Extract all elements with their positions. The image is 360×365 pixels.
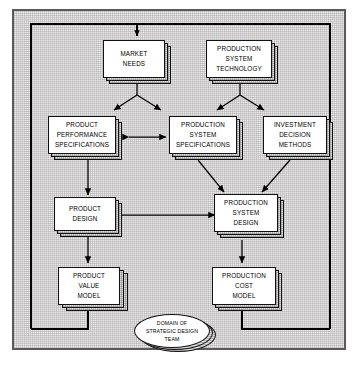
node-label-line: PRODUCTION	[224, 198, 268, 208]
node-product-performance-specifications[interactable]: PRODUCT PERFORMANCE SPECIFICATIONS	[48, 116, 116, 154]
node-label-line: PRODUCT	[73, 271, 105, 281]
node-production-system-design[interactable]: PRODUCTION SYSTEM DESIGN	[214, 194, 278, 232]
node-product-design[interactable]: PRODUCT DESIGN	[54, 197, 116, 231]
ellipse-label-line: DOMAIN OF	[157, 319, 187, 327]
node-production-cost-model[interactable]: PRODUCTION COST MODEL	[212, 267, 276, 305]
node-label-line: INVESTMENT	[274, 120, 316, 130]
node-label-line: MODEL	[232, 291, 255, 301]
node-production-system-specifications[interactable]: PRODUCTION SYSTEM SPECIFICATIONS	[169, 116, 237, 154]
node-label-line: SYSTEM	[190, 130, 217, 140]
node-label-line: SPECIFICATIONS	[55, 140, 109, 150]
node-label-line: NEEDS	[123, 59, 145, 69]
node-product-value-model[interactable]: PRODUCT VALUE MODEL	[58, 267, 120, 305]
node-label-line: TECHNOLOGY	[216, 64, 262, 74]
node-label-line: PRODUCTION	[222, 271, 266, 281]
node-label-line: SPECIFICATIONS	[176, 140, 230, 150]
node-label-line: MODEL	[77, 291, 100, 301]
node-label-line: METHODS	[279, 140, 312, 150]
node-label-line: SYSTEM	[226, 54, 253, 64]
node-label-line: MARKET	[120, 49, 147, 59]
domain-of-strategic-design-team-ellipse[interactable]: DOMAIN OF STRATEGIC DESIGN TEAM	[134, 314, 210, 348]
node-label-line: COST	[235, 281, 253, 291]
node-investment-decision-methods[interactable]: INVESTMENT DECISION METHODS	[263, 116, 327, 154]
node-production-system-technology[interactable]: PRODUCTION SYSTEM TECHNOLOGY	[206, 40, 272, 78]
node-label-line: PRODUCT	[69, 204, 101, 214]
node-label-line: DECISION	[279, 130, 311, 140]
node-label-line: VALUE	[79, 281, 100, 291]
node-label-line: PRODUCT	[66, 120, 98, 130]
node-label-line: DESIGN	[233, 218, 258, 228]
node-market-needs[interactable]: MARKET NEEDS	[103, 40, 165, 78]
node-label-line: PRODUCTION	[181, 120, 225, 130]
node-label-line: DESIGN	[72, 214, 97, 224]
node-label-line: PERFORMANCE	[57, 130, 108, 140]
node-label-line: SYSTEM	[233, 208, 260, 218]
node-label-line: PRODUCTION	[217, 44, 261, 54]
diagram-canvas: MARKET NEEDS PRODUCTION SYSTEM TECHNOLOG…	[0, 0, 360, 365]
ellipse-label-line: TEAM	[165, 335, 180, 343]
ellipse-label-line: STRATEGIC DESIGN	[146, 327, 198, 335]
